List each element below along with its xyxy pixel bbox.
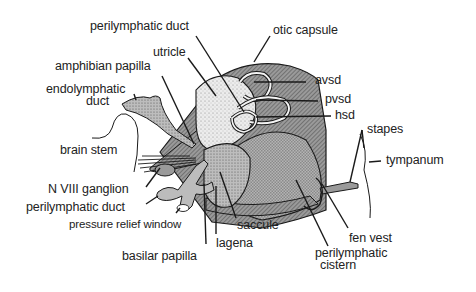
label-basilar-papilla: basilar papilla xyxy=(122,250,197,263)
tympanum-shape xyxy=(360,134,370,218)
label-amphibian-papilla: amphibian papilla xyxy=(55,60,151,73)
label-utricle: utricle xyxy=(153,46,186,59)
label-perilymphatic-duct-top: perilymphatic duct xyxy=(90,20,189,33)
label-pvsd: pvsd xyxy=(325,93,351,106)
label-avsd: avsd xyxy=(315,74,341,87)
label-otic-capsule: otic capsule xyxy=(273,24,338,37)
label-fen-vest: fen vest xyxy=(349,232,392,245)
label-perilymphatic-cistern-line2: cistern xyxy=(320,259,356,272)
label-pressure-relief-window: pressure relief window xyxy=(69,218,181,231)
label-stapes: stapes xyxy=(367,123,403,136)
label-hsd: hsd xyxy=(335,109,355,122)
label-saccule: saccule xyxy=(237,219,279,232)
label-endolymphatic-duct-line2: duct xyxy=(86,95,109,108)
label-n-viii-ganglion: N VIII ganglion xyxy=(48,183,129,196)
label-tympanum: tympanum xyxy=(386,154,444,167)
label-brain-stem: brain stem xyxy=(60,144,117,157)
label-perilymphatic-duct-bottom: perilymphatic duct xyxy=(26,201,125,214)
label-lagena: lagena xyxy=(216,237,253,250)
